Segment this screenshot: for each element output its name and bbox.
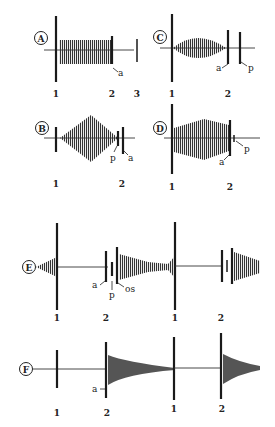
marker-label: 1 xyxy=(169,89,175,99)
murmur-envelope-rect xyxy=(59,40,111,64)
marker-label: 2 xyxy=(104,408,110,418)
murmur-envelope-plateau xyxy=(174,119,229,160)
panel-label-a: A xyxy=(37,34,46,44)
panel-b: p a B 1 2 xyxy=(36,115,136,189)
marker-label: 1 xyxy=(169,182,175,192)
annot-a: a xyxy=(92,384,98,394)
panel-label-e: E xyxy=(26,263,33,273)
marker-label: 2 xyxy=(227,182,233,192)
marker-label: 2 xyxy=(225,89,231,99)
annot-a: a xyxy=(128,153,134,163)
marker-label: 1 xyxy=(172,313,178,323)
annot-a: a xyxy=(118,68,124,78)
panel-label-c: C xyxy=(156,33,163,43)
murmur-envelope-rumble-2 xyxy=(234,252,260,281)
annot-os: os xyxy=(125,284,135,294)
murmur-envelope-spindle xyxy=(173,38,226,58)
panel-label-d: D xyxy=(156,124,164,134)
panel-a: a A 1 2 3 xyxy=(35,16,141,99)
annot-p: p xyxy=(248,63,254,73)
annot-p: p xyxy=(110,153,116,163)
marker-label: 2 xyxy=(218,313,224,323)
marker-label: 1 xyxy=(54,313,60,323)
marker-label: 1 xyxy=(171,404,177,414)
marker-label: 2 xyxy=(103,313,109,323)
marker-label: 2 xyxy=(119,179,125,189)
panel-d: a p D 1 2 xyxy=(154,104,261,192)
marker-label: 1 xyxy=(53,179,59,189)
annot-a: a xyxy=(216,63,222,73)
marker-label: 2 xyxy=(219,404,225,414)
panel-label-b: B xyxy=(38,124,46,134)
murmur-envelope-decrescendo xyxy=(108,355,175,385)
heart-sound-murmur-diagram: a A 1 2 3 a p C 1 2 p a B 1 2 xyxy=(0,0,275,427)
panel-label-f: F xyxy=(23,365,30,375)
murmur-envelope-rumble xyxy=(119,254,175,280)
annot-p: p xyxy=(244,144,250,154)
murmur-envelope-decrescendo-2 xyxy=(223,354,260,384)
murmur-envelope-tail xyxy=(36,257,57,277)
panel-e: a p os E 1 2 1 2 xyxy=(23,222,261,323)
marker-label: 1 xyxy=(53,89,59,99)
annot-p: p xyxy=(109,290,115,300)
marker-label: 2 xyxy=(109,89,115,99)
marker-label: 1 xyxy=(54,408,60,418)
panel-f: a F 1 2 1 2 xyxy=(20,333,261,418)
panel-c: a p C 1 2 xyxy=(154,14,256,99)
annot-a: a xyxy=(219,157,225,167)
marker-label: 3 xyxy=(134,89,140,99)
annot-a: a xyxy=(92,280,98,290)
